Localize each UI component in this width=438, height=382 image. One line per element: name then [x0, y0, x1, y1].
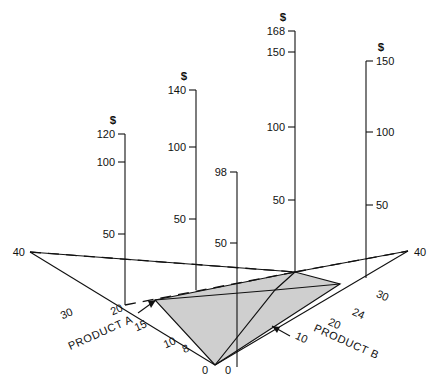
product-a-label-8: 8: [180, 342, 190, 355]
axis-168-label-100: 100: [267, 121, 285, 133]
product-b-label-40: 40: [414, 246, 426, 258]
axis-140-label-100: 100: [168, 141, 186, 153]
dashed-objective-line: [30, 252, 295, 272]
axis-120-label-120: 120: [97, 128, 115, 140]
product-b-label-10: 10: [294, 329, 310, 345]
axis-168-label-150: 150: [267, 46, 285, 58]
axis-140-dollar-sign: $: [181, 70, 188, 82]
vertical-axis-120: $ 120 100 50: [97, 114, 125, 305]
product-a-label-10: 10: [161, 334, 177, 350]
product-b-label-24: 24: [351, 305, 367, 321]
axis-168-label-50: 50: [273, 194, 285, 206]
three-dimensional-lp-graph: $ 120 100 50 $ 140 100 50 98 50 $ 168 15…: [0, 0, 438, 382]
axis-168-dollar-sign: $: [280, 11, 287, 23]
product-a-label-0: 0: [202, 364, 208, 376]
product-a-axis-title: PRODUCT A: [66, 313, 134, 352]
axis-140-label-50: 50: [174, 213, 186, 225]
product-b-label-30: 30: [375, 287, 391, 303]
product-b-label-0: 0: [225, 364, 231, 376]
axis-120-label-50: 50: [103, 228, 115, 240]
product-a-label-15: 15: [132, 317, 148, 333]
axis-120-dollar-sign: $: [110, 114, 117, 126]
vertex-arrow-head-15: [148, 300, 156, 308]
axis-150-label-50: 50: [376, 199, 388, 211]
axis-150-dollar-sign: $: [378, 41, 385, 53]
axis-150-label-150: 150: [376, 55, 394, 67]
vertical-axis-140: $ 140 100 50: [168, 70, 196, 290]
product-a-label-30: 30: [58, 305, 74, 321]
axis-140-label-140: 140: [168, 84, 186, 96]
axis-98-label-50: 50: [215, 237, 227, 249]
vertical-axis-150: $ 150 100 50: [366, 41, 394, 278]
axis-150-label-100: 100: [376, 126, 394, 138]
product-b-axis-title: PRODUCT B: [312, 322, 381, 361]
axis-120-label-100: 100: [97, 156, 115, 168]
product-a-label-20: 20: [108, 301, 124, 317]
axis-168-label-168: 168: [267, 25, 285, 37]
product-a-label-40: 40: [13, 246, 25, 258]
axis-98-label-98: 98: [215, 166, 227, 178]
vertical-axis-168: $ 168 150 100 50: [267, 11, 295, 272]
